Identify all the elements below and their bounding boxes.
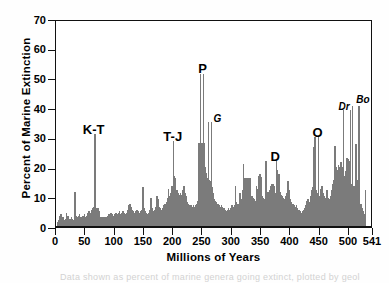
annotation-bo: Bo bbox=[333, 95, 389, 105]
y-tick-label: 10 bbox=[6, 193, 46, 204]
x-tick bbox=[260, 228, 261, 235]
extinction-chart-figure: Percent of Marine Extinction 01020304050… bbox=[0, 0, 389, 283]
x-tick bbox=[55, 228, 56, 235]
y-tick bbox=[48, 109, 55, 110]
x-tick bbox=[172, 228, 173, 235]
annotation-o: O bbox=[288, 126, 348, 139]
event-spike bbox=[211, 122, 212, 226]
figure-caption-fragment: Data shown as percent of marine genera g… bbox=[60, 272, 360, 283]
x-tick bbox=[372, 228, 373, 235]
event-spike bbox=[173, 141, 174, 226]
x-tick bbox=[84, 228, 85, 235]
x-tick bbox=[201, 228, 202, 235]
x-tick bbox=[231, 228, 232, 235]
annotation-g: G bbox=[187, 114, 247, 124]
x-tick bbox=[289, 228, 290, 235]
y-tick-label: 20 bbox=[6, 163, 46, 174]
annotation-p: P bbox=[173, 62, 233, 75]
x-tick bbox=[143, 228, 144, 235]
y-tick bbox=[48, 139, 55, 140]
event-spike bbox=[203, 74, 204, 226]
y-tick-label: 50 bbox=[6, 74, 46, 85]
y-tick-label: 70 bbox=[6, 15, 46, 26]
y-tick bbox=[48, 79, 55, 80]
y-tick bbox=[48, 228, 55, 229]
event-spike bbox=[350, 110, 351, 226]
event-spike bbox=[94, 134, 95, 226]
event-spike bbox=[358, 106, 359, 226]
y-tick bbox=[48, 169, 55, 170]
x-axis-title: Millions of Years bbox=[55, 251, 372, 263]
event-spike bbox=[276, 161, 277, 226]
x-tick bbox=[114, 228, 115, 235]
y-tick bbox=[48, 50, 55, 51]
y-tick-label: 0 bbox=[6, 223, 46, 234]
x-tick bbox=[348, 228, 349, 235]
annotation-d: D bbox=[245, 150, 305, 163]
bar bbox=[365, 190, 367, 226]
y-tick bbox=[48, 198, 55, 199]
annotation-k-t: K-T bbox=[64, 123, 124, 136]
y-tick-label: 60 bbox=[6, 44, 46, 55]
y-tick-label: 40 bbox=[6, 104, 46, 115]
x-tick bbox=[319, 228, 320, 235]
annotation-t-j: T-J bbox=[143, 130, 203, 143]
event-spike bbox=[318, 137, 319, 226]
y-tick-label: 30 bbox=[6, 133, 46, 144]
y-tick bbox=[48, 20, 55, 21]
x-tick-label: 541 bbox=[352, 236, 389, 247]
